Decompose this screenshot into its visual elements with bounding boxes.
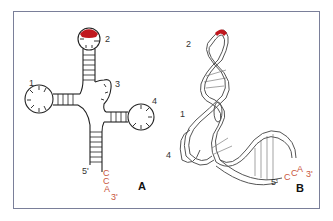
b-arm-label-1: 1: [180, 110, 185, 119]
b-cca-c1: C: [284, 173, 291, 182]
b-arm-label-4: 4: [166, 151, 171, 160]
cloverleaf-diagram: [0, 0, 333, 221]
b-three-prime-label: 3': [306, 170, 313, 179]
arm-label-3: 3: [115, 80, 120, 89]
panel-label-b: B: [296, 183, 304, 194]
b-arm-label-2: 2: [186, 40, 191, 49]
arm-label-1: 1: [29, 79, 34, 88]
three-prime-label: 3': [111, 193, 118, 202]
five-prime-label: 5': [82, 167, 89, 176]
tertiary-structure: [180, 30, 296, 185]
b-five-prime-label: 5': [271, 178, 278, 187]
b-cca-a: A: [297, 165, 303, 174]
cca-a: A: [104, 185, 110, 194]
arm-label-2: 2: [105, 35, 110, 44]
arm-label-4: 4: [152, 97, 157, 106]
panel-label-a: A: [138, 181, 146, 192]
